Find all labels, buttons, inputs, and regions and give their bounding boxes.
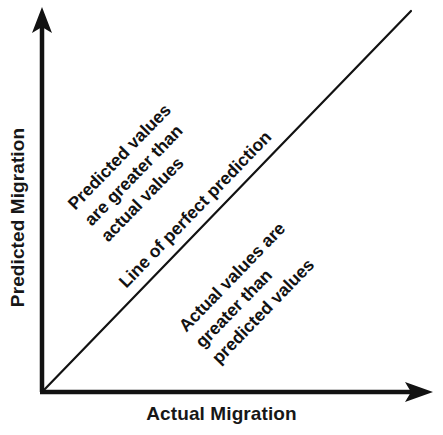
y-axis-label: Predicted Migration — [4, 0, 32, 435]
scatter-diagram-figure: Actual Migration Predicted Migration Pre… — [0, 0, 443, 435]
x-axis-label: Actual Migration — [0, 403, 443, 425]
plot-canvas — [0, 0, 443, 435]
